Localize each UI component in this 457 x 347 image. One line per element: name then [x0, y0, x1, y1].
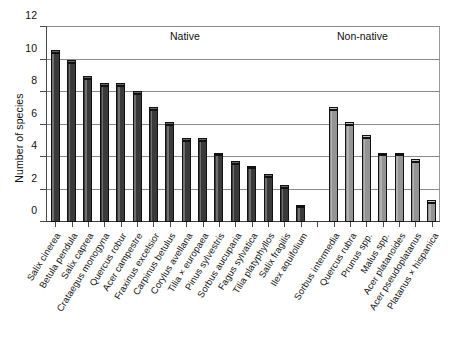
bar-slot: [358, 27, 374, 222]
bar-slot: [162, 27, 178, 222]
bar-slot: [96, 27, 112, 222]
bar-front-face: [280, 188, 289, 222]
bar-slot: [129, 27, 145, 222]
bar-slot: [342, 27, 358, 222]
bar: [427, 203, 436, 223]
bar-front-face: [231, 164, 240, 223]
bar-front-face: [100, 86, 109, 223]
bar-slot: [424, 27, 440, 222]
bar: [182, 141, 191, 222]
x-label-slot: Platanus × hispanica: [424, 222, 440, 346]
bar-slot: [178, 27, 194, 222]
bar-slot: [375, 27, 391, 222]
bar: [345, 125, 354, 223]
bar-front-face: [165, 125, 174, 223]
bar-highlight: [216, 156, 218, 221]
bar: [198, 141, 207, 222]
bar-highlight: [52, 54, 54, 221]
bar-slot: [325, 27, 341, 222]
y-axis-tick: [40, 59, 47, 60]
bar-front-face: [296, 207, 305, 222]
bar-slot: [113, 27, 129, 222]
bar-slot: [244, 27, 260, 222]
bar: [100, 86, 109, 223]
plot-area: 024681012: [46, 26, 440, 222]
bar-highlight: [200, 142, 202, 221]
y-axis-tick-label: 6: [31, 107, 37, 119]
y-axis-tick-label: 0: [31, 204, 37, 216]
bar: [67, 63, 76, 222]
bar-slot: [145, 27, 161, 222]
x-label-slot: Quercus rubra: [342, 222, 358, 346]
bar-highlight: [134, 95, 136, 221]
bar-front-face: [149, 110, 158, 222]
bar: [264, 177, 273, 223]
bar: [51, 53, 60, 222]
bar-front-face: [247, 168, 256, 222]
bar: [280, 188, 289, 222]
bar-highlight: [347, 126, 349, 222]
bar-slot: [80, 27, 96, 222]
bar-front-face: [83, 79, 92, 222]
bar: [231, 164, 240, 223]
bar-highlight: [265, 178, 267, 222]
y-axis-tick: [40, 156, 47, 157]
bar-front-face: [116, 86, 125, 223]
bar: [329, 110, 338, 222]
bar-front-face: [329, 110, 338, 222]
bar-highlight: [69, 64, 71, 221]
y-axis-tick-label: 4: [31, 139, 37, 151]
bar-front-face: [378, 155, 387, 222]
bar-slot: [293, 27, 309, 222]
bar: [214, 155, 223, 222]
bar-slot: [260, 27, 276, 222]
group-label-nonnative: Non-native: [337, 30, 388, 42]
bar-highlight: [331, 111, 333, 221]
bar-highlight: [364, 139, 366, 222]
bar: [378, 155, 387, 222]
bar-slot: [407, 27, 423, 222]
bar-front-face: [345, 125, 354, 223]
bar: [149, 110, 158, 222]
bar-highlight: [183, 142, 185, 221]
bar-slot: [194, 27, 210, 222]
bar: [395, 155, 404, 222]
bar: [411, 162, 420, 222]
bar-slot-spacer: [309, 27, 325, 222]
bar: [83, 79, 92, 222]
y-axis-tick-label: 8: [31, 74, 37, 86]
y-axis-tick: [40, 189, 47, 190]
bar-front-face: [362, 138, 371, 223]
bar-highlight: [249, 169, 251, 221]
bar-highlight: [396, 156, 398, 221]
bar-highlight: [380, 156, 382, 221]
bar-front-face: [133, 94, 142, 222]
y-axis-tick: [40, 124, 47, 125]
bar-front-face: [395, 155, 404, 222]
bar-highlight: [151, 111, 153, 221]
bar-front-face: [427, 203, 436, 223]
bar-highlight: [282, 189, 284, 221]
bar-highlight: [233, 165, 235, 222]
bar: [165, 125, 174, 223]
bar-highlight: [429, 204, 431, 222]
bar-slot: [47, 27, 63, 222]
bar-front-face: [214, 155, 223, 222]
y-axis-title: Number of species: [13, 73, 25, 203]
y-axis-tick-label: 10: [25, 42, 37, 54]
y-axis-tick-label: 2: [31, 172, 37, 184]
x-axis-labels: Salix cinereaBetula pendulaSalix capreaC…: [46, 222, 440, 346]
y-axis-tick-label: 12: [25, 9, 37, 21]
bar: [362, 138, 371, 223]
bar: [116, 86, 125, 223]
y-axis-tick: [40, 26, 47, 27]
bar-slot: [227, 27, 243, 222]
bar: [296, 207, 305, 222]
bar-series: [47, 27, 440, 222]
bar-front-face: [182, 141, 191, 222]
bar-front-face: [198, 141, 207, 222]
bar-slot: [276, 27, 292, 222]
bar-front-face: [264, 177, 273, 223]
group-label-native: Native: [170, 30, 200, 42]
bar-highlight: [102, 87, 104, 222]
